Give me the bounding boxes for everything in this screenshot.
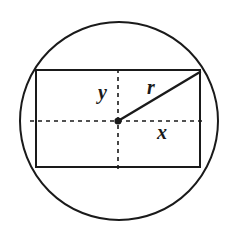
label-half-width-x: x (157, 122, 167, 142)
label-radius-r: r (147, 77, 155, 97)
figure-canvas (0, 0, 225, 235)
radius-line (118, 72, 200, 121)
center-point-dot (114, 117, 121, 124)
label-half-height-y: y (98, 82, 107, 102)
geometry-figure: y r x (0, 0, 225, 235)
